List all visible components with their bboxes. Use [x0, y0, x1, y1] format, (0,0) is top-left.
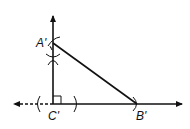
label-B: B' [136, 109, 147, 123]
construction-diagram: A' C' B' [0, 0, 190, 129]
right-angle-mark [53, 96, 61, 104]
hypotenuse-segment [53, 43, 137, 104]
label-C: C' [48, 109, 60, 123]
label-A: A' [35, 36, 47, 50]
arc-left-of-C [38, 96, 41, 112]
arc-at-A-lower [50, 46, 52, 50]
